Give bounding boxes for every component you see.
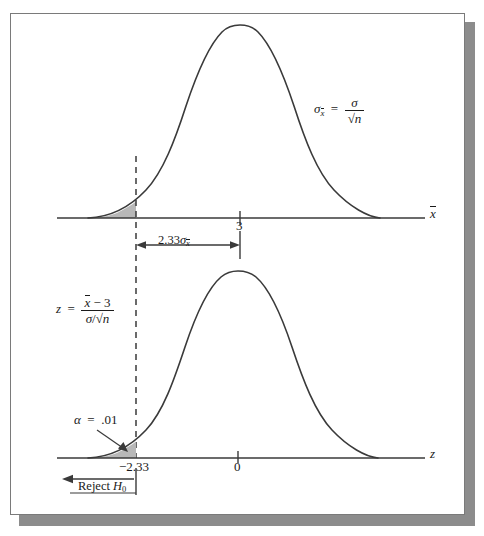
reject-region-label: Reject H0	[78, 480, 126, 494]
figure-root: σx = σ √n z = x − 3 σ/√n 3 x 2.33σx α = …	[0, 0, 484, 536]
alpha-annotation-label: α = .01	[74, 413, 117, 426]
z-symbol: z	[56, 301, 61, 316]
fraction-denominator-sqrt-n: √n	[345, 111, 365, 125]
null-hypothesis-symbol: H	[113, 479, 122, 493]
sigma-subscript-xbar: x	[320, 109, 324, 118]
z-fraction-numerator: x − 3	[81, 296, 113, 311]
z-fraction-denominator: σ/√n	[81, 311, 113, 325]
null-hypothesis-subscript: 0	[122, 484, 126, 494]
top-mean-tick-label: 3	[236, 219, 243, 232]
fraction-numerator-sigma: σ	[345, 96, 365, 111]
critical-value-label: −2.33	[119, 460, 149, 473]
alpha-value: .01	[101, 412, 117, 427]
alpha-symbol: α	[74, 412, 81, 427]
top-axis-label-xbar: x	[430, 207, 436, 220]
equals-sign: =	[64, 301, 78, 316]
bottom-normal-curve	[88, 271, 378, 458]
alpha-equals: =	[84, 412, 98, 427]
distance-sigma-subscript: x	[186, 239, 190, 248]
distance-value: 2.33	[158, 233, 180, 247]
sigma-over-sqrt-n: σ √n	[345, 96, 365, 125]
xbar-glyph: x	[430, 207, 436, 220]
bottom-axis-label-z: z	[430, 447, 435, 460]
alpha-leader-arrow	[97, 430, 128, 452]
standard-error-formula: σx = σ √n	[314, 96, 364, 125]
reject-word: Reject	[78, 479, 110, 493]
figure-drawing-canvas	[0, 0, 484, 536]
equals-sign: =	[328, 101, 342, 116]
distance-annotation-label: 2.33σx	[158, 234, 190, 248]
z-fraction: x − 3 σ/√n	[81, 296, 113, 325]
z-statistic-formula: z = x − 3 σ/√n	[56, 296, 114, 325]
bottom-center-tick-label: 0	[234, 460, 241, 473]
